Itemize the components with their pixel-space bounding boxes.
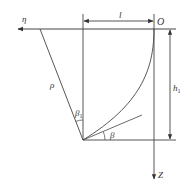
origin-label: O — [157, 16, 164, 27]
beta-angle-arc — [103, 132, 105, 140]
rho-label: ρ — [49, 80, 55, 90]
trajectory-curve — [83, 29, 154, 140]
beta1-angle-arc — [76, 120, 83, 121]
z-axis-label: Z — [158, 170, 164, 180]
height-label-sub: 1 — [178, 88, 181, 94]
eta-label: η — [22, 14, 27, 24]
rho-line — [40, 29, 83, 140]
beta-label: β — [109, 130, 115, 140]
length-label: l — [119, 10, 122, 20]
beta1-label-sub: 1 — [79, 113, 82, 119]
height-label: h1 — [173, 83, 181, 94]
beta1-label: β1 — [74, 108, 82, 119]
diagram-canvas: η Z O l h1 ρ β β1 — [0, 0, 191, 188]
